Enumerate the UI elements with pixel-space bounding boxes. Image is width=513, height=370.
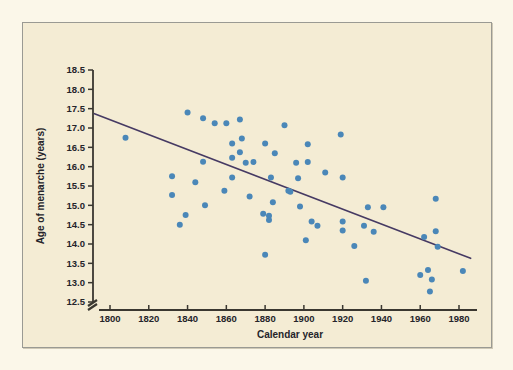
- data-point: [250, 159, 256, 165]
- data-point: [262, 252, 268, 258]
- y-axis-tick-label: 18.5: [67, 64, 86, 75]
- data-point: [202, 202, 208, 208]
- data-point: [183, 212, 189, 218]
- y-axis-tick-label: 14.5: [67, 219, 86, 230]
- data-point: [266, 217, 272, 223]
- data-point: [223, 120, 229, 126]
- data-point: [427, 289, 433, 295]
- y-axis-tick-label: 13.0: [67, 277, 86, 288]
- y-axis-tick-label: 16.0: [67, 161, 86, 172]
- data-point: [314, 223, 320, 229]
- data-point: [169, 173, 175, 179]
- data-point: [435, 244, 441, 250]
- data-point: [247, 193, 253, 199]
- data-point: [380, 204, 386, 210]
- data-point: [421, 234, 427, 240]
- data-point-group: [123, 110, 466, 295]
- data-point: [361, 223, 367, 229]
- data-point: [363, 278, 369, 284]
- x-axis-tick-label: 1840: [177, 313, 198, 324]
- data-point: [340, 174, 346, 180]
- data-point: [338, 132, 344, 138]
- x-axis-tick-label: 1920: [332, 313, 353, 324]
- x-axis-tick-label: 1960: [410, 313, 431, 324]
- y-axis-tick-label: 15.0: [67, 200, 86, 211]
- data-point: [185, 110, 191, 116]
- data-point: [270, 199, 276, 205]
- y-axis-tick-label: 13.5: [67, 258, 86, 269]
- figure-root: 12.513.013.514.014.515.015.516.016.517.0…: [0, 0, 513, 370]
- data-point: [417, 272, 423, 278]
- data-point: [340, 227, 346, 233]
- data-point: [229, 174, 235, 180]
- data-point: [460, 268, 466, 274]
- data-point: [229, 140, 235, 146]
- y-axis-tick-label: 15.5: [67, 180, 86, 191]
- data-point: [200, 115, 206, 121]
- data-point: [239, 135, 245, 141]
- data-point: [200, 159, 206, 165]
- y-axis-tick-label: 14.0: [67, 238, 86, 249]
- data-point: [123, 135, 129, 141]
- y-axis-tick-label: 12.5: [67, 296, 86, 307]
- x-axis-tick-label: 1940: [371, 313, 392, 324]
- data-point: [295, 175, 301, 181]
- data-point: [243, 160, 249, 166]
- regression-trendline: [94, 114, 470, 259]
- y-axis-tick-label: 17.5: [67, 103, 86, 114]
- data-point: [260, 211, 266, 217]
- x-axis-tick-label: 1980: [448, 313, 469, 324]
- data-point: [322, 169, 328, 175]
- y-axis-tick-label: 17.0: [67, 122, 86, 133]
- data-point: [262, 140, 268, 146]
- data-point: [365, 204, 371, 210]
- data-point: [305, 159, 311, 165]
- data-point: [282, 122, 288, 128]
- x-axis-tick-label: 1820: [138, 313, 159, 324]
- y-axis-tick-label: 16.5: [67, 142, 86, 153]
- x-axis-tick-label: 1880: [255, 313, 276, 324]
- data-point: [303, 237, 309, 243]
- data-point: [272, 150, 278, 156]
- data-point: [287, 189, 293, 195]
- scatter-chart: 12.513.013.514.014.515.015.516.016.517.0…: [0, 0, 513, 370]
- x-axis-tick-label: 1800: [99, 313, 120, 324]
- data-point: [309, 219, 315, 225]
- x-axis-tick-label: 1900: [293, 313, 314, 324]
- data-point: [268, 174, 274, 180]
- x-axis-tick-label: 1860: [216, 313, 237, 324]
- data-point: [229, 155, 235, 161]
- data-point: [212, 120, 218, 126]
- data-point: [221, 188, 227, 194]
- data-point: [351, 243, 357, 249]
- data-point: [297, 203, 303, 209]
- data-point: [429, 277, 435, 283]
- data-point: [169, 192, 175, 198]
- data-point: [371, 229, 377, 235]
- data-point: [305, 141, 311, 147]
- data-point: [425, 267, 431, 273]
- data-point: [433, 196, 439, 202]
- y-axis-title: Age of menarche (years): [35, 128, 46, 245]
- data-point: [340, 219, 346, 225]
- data-point: [237, 149, 243, 155]
- data-point: [237, 116, 243, 122]
- y-axis-tick-label: 18.0: [67, 84, 86, 95]
- data-point: [192, 179, 198, 185]
- data-point: [293, 160, 299, 166]
- data-point: [433, 228, 439, 234]
- data-point: [177, 222, 183, 228]
- x-axis-title: Calendar year: [257, 329, 323, 340]
